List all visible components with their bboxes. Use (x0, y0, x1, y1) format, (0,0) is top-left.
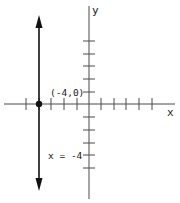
y-axis-label: y (92, 4, 99, 17)
point-neg4-0 (36, 101, 42, 107)
point-label: (-4,0) (50, 87, 84, 98)
x-axis-label: x (167, 106, 174, 119)
arrow-down-icon (36, 178, 43, 191)
coordinate-plane: y x (-4,0) x = -4 (0, 0, 180, 203)
arrow-up-icon (36, 15, 43, 28)
equation-label: x = -4 (48, 150, 83, 161)
